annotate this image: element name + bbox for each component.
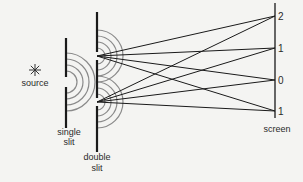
single-slit-label-line2: slit (64, 137, 75, 147)
screen: 2 1 0 1 screen (263, 3, 290, 134)
single-slit-label-line1: single (57, 127, 81, 137)
fringe-marker-1-lower: 1 (278, 106, 284, 117)
double-slit-label-line2: slit (92, 163, 103, 173)
interference-rays (97, 16, 275, 111)
light-source: source (21, 64, 48, 88)
single-slit-wavefronts (66, 53, 95, 111)
screen-label: screen (263, 124, 290, 134)
star-burst-icon (29, 64, 41, 76)
fringe-marker-2: 2 (278, 11, 284, 22)
double-slit-wavefronts (97, 30, 123, 128)
double-slit-label-line1: double (83, 152, 110, 162)
source-label: source (21, 78, 48, 88)
fringe-marker-0: 0 (278, 75, 284, 86)
fringe-marker-1-upper: 1 (278, 43, 284, 54)
double-slit-diagram: source single slit (0, 0, 303, 182)
